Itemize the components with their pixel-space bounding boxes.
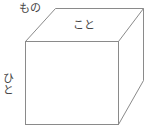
cube-front-face: [26, 42, 119, 125]
label-hito: ひと: [2, 72, 13, 96]
label-mono: もの: [19, 3, 41, 14]
label-koto: こと: [73, 20, 95, 31]
cube-right-face: [119, 9, 144, 125]
